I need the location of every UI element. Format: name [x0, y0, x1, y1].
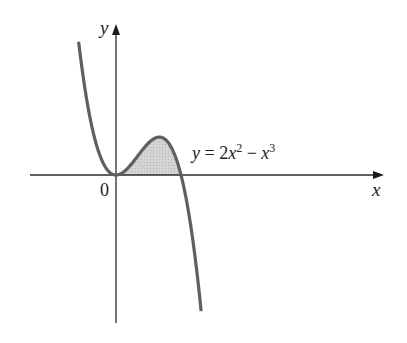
equation-minus: − — [242, 143, 261, 163]
y-axis-arrow-icon — [112, 24, 120, 35]
equation-exp2: 3 — [269, 141, 275, 155]
origin-label: 0 — [100, 181, 109, 199]
function-curve — [79, 42, 202, 312]
equation-label: y = 2x2 − x3 — [192, 142, 275, 162]
y-axis-label: y — [100, 18, 108, 37]
equation-var1: x — [228, 143, 236, 163]
x-axis-label: x — [372, 180, 380, 199]
equation-lhs: y — [192, 143, 200, 163]
equation-equals: = 2 — [200, 143, 228, 163]
x-axis-arrow-icon — [373, 171, 384, 179]
graph-figure: y x 0 y = 2x2 − x3 — [0, 0, 407, 343]
plot-canvas — [0, 0, 407, 343]
